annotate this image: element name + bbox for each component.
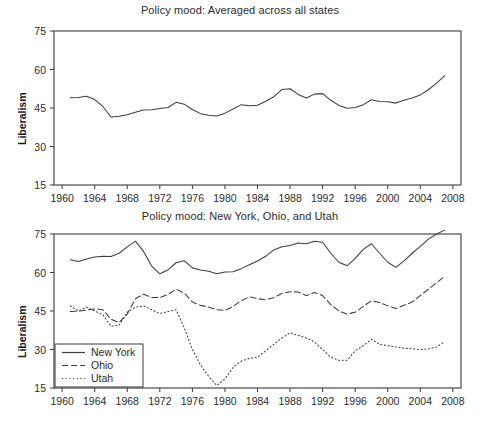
x-tick-label: 1996 xyxy=(344,192,368,204)
y-tick-label: 75 xyxy=(34,228,46,240)
chart-svg-top: 1530456075196019641968197219761980198419… xyxy=(0,0,480,212)
x-tick-label: 1988 xyxy=(278,395,302,407)
x-tick-label: 1992 xyxy=(311,192,335,204)
y-tick-label: 15 xyxy=(34,179,46,191)
x-tick-label: 1976 xyxy=(181,395,205,407)
x-tick-label: 1988 xyxy=(278,192,302,204)
x-tick-label: 1972 xyxy=(148,395,172,407)
x-tick-label: 2008 xyxy=(441,395,465,407)
y-tick-label: 30 xyxy=(34,344,46,356)
x-tick-label: 1960 xyxy=(50,192,74,204)
x-tick-label: 1996 xyxy=(344,395,368,407)
y-tick-label: 45 xyxy=(34,305,46,317)
x-tick-label: 1960 xyxy=(50,395,74,407)
y-tick-label: 15 xyxy=(34,382,46,394)
y-tick-label: 60 xyxy=(34,64,46,76)
legend-label: Utah xyxy=(91,372,113,384)
chart-svg-bottom: 1530456075196019641968197219761980198419… xyxy=(0,206,480,424)
legend-label: Ohio xyxy=(91,359,113,371)
x-tick-label: 1968 xyxy=(116,395,140,407)
x-tick-label: 1976 xyxy=(181,192,205,204)
x-tick-label: 1992 xyxy=(311,395,335,407)
x-tick-label: 1968 xyxy=(116,192,140,204)
chart-panel-bottom: Policy mood: New York, Ohio, and Utah Li… xyxy=(0,206,480,424)
y-tick-label: 30 xyxy=(34,141,46,153)
x-tick-label: 1964 xyxy=(83,192,107,204)
x-tick-label: 2004 xyxy=(409,395,433,407)
series-line xyxy=(70,76,444,117)
x-tick-label: 1984 xyxy=(246,192,270,204)
y-tick-label: 45 xyxy=(34,102,46,114)
x-tick-label: 1980 xyxy=(213,395,237,407)
y-tick-label: 75 xyxy=(34,25,46,37)
x-tick-label: 2004 xyxy=(409,192,433,204)
x-tick-label: 2000 xyxy=(376,192,400,204)
x-tick-label: 2008 xyxy=(441,192,465,204)
plot-frame xyxy=(54,31,461,185)
x-tick-label: 2000 xyxy=(376,395,400,407)
x-tick-label: 1964 xyxy=(83,395,107,407)
x-tick-label: 1980 xyxy=(213,192,237,204)
chart-panel-top: Policy mood: Averaged across all states … xyxy=(0,0,480,212)
series-line xyxy=(70,230,444,274)
x-tick-label: 1984 xyxy=(246,395,270,407)
x-tick-label: 1972 xyxy=(148,192,172,204)
y-tick-label: 60 xyxy=(34,267,46,279)
series-line xyxy=(70,276,444,322)
legend-label: New York xyxy=(91,346,136,358)
